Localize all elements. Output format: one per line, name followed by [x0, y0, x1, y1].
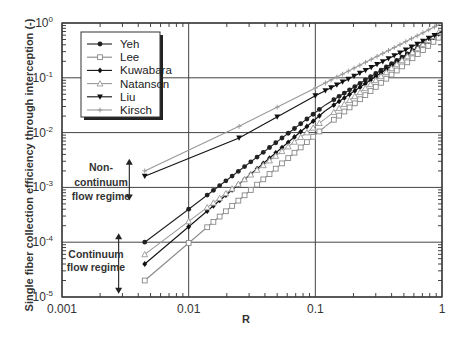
y-tick-label: 10-2 [33, 125, 54, 140]
marker-square [236, 198, 241, 203]
marker-cross [363, 60, 368, 65]
marker-square [292, 150, 297, 155]
marker-triangle-down [357, 71, 363, 76]
non-continuum-label: flow regime [72, 190, 131, 202]
marker-circle [337, 94, 342, 99]
marker-circle [280, 136, 285, 141]
x-tick-label: 1 [439, 302, 446, 316]
marker-square [142, 278, 147, 283]
legend-label: Yeh [120, 38, 139, 50]
y-tick-labels: 10010-110-210-310-410-5 [33, 15, 54, 304]
marker-square [186, 241, 191, 246]
marker-square [347, 105, 352, 110]
marker-cross [375, 54, 380, 59]
marker-cross [357, 63, 362, 68]
arrow-head-down [115, 288, 122, 294]
marker-cross [398, 42, 403, 47]
marker-square [400, 64, 405, 69]
marker-square [337, 113, 342, 118]
marker-cross [142, 169, 147, 174]
marker-circle [230, 174, 235, 179]
annotations: Non-continuumflow regimeContinuumflow re… [67, 159, 133, 294]
marker-circle [98, 42, 103, 47]
marker-circle [273, 140, 278, 145]
legend-label: Kirsch [120, 104, 152, 116]
marker-diamond [331, 102, 336, 108]
marker-cross [403, 39, 408, 44]
marker-square [242, 193, 247, 198]
marker-cross [237, 124, 242, 129]
series-line [145, 23, 442, 171]
marker-circle [286, 131, 291, 136]
marker-square [384, 76, 389, 81]
marker-circle [223, 178, 228, 183]
marker-circle [242, 164, 247, 169]
marker-cross [409, 36, 414, 41]
marker-square [405, 60, 410, 65]
marker-square [217, 214, 222, 219]
marker-square [426, 44, 431, 49]
marker-cross [386, 48, 391, 53]
marker-square [98, 55, 103, 60]
marker-cross [346, 69, 351, 74]
marker-triangle-down [340, 80, 346, 85]
marker-circle [311, 112, 316, 117]
marker-circle [292, 126, 297, 131]
marker-circle [142, 240, 147, 245]
marker-triangle-down [368, 65, 374, 70]
marker-cross [340, 72, 345, 77]
series-liu [142, 31, 442, 179]
marker-square [317, 129, 322, 134]
marker-triangle-down [363, 68, 369, 73]
marker-square [248, 188, 253, 193]
marker-square [280, 161, 285, 166]
marker-square [363, 93, 368, 98]
marker-cross [392, 45, 397, 50]
x-tick-label: 0.01 [177, 302, 201, 316]
marker-circle [331, 97, 336, 102]
marker-square [261, 177, 266, 182]
marker-cross [275, 105, 280, 110]
marker-diamond [337, 99, 342, 105]
marker-square [342, 109, 347, 114]
y-tick-label: 10-4 [33, 234, 54, 249]
marker-triangle-down [312, 93, 318, 98]
marker-circle [236, 169, 241, 174]
marker-square [415, 52, 420, 57]
marker-cross [313, 86, 318, 91]
marker-triangle-down [386, 56, 392, 61]
marker-square [305, 140, 310, 145]
marker-circle [298, 121, 303, 126]
marker-triangle-down [142, 174, 148, 179]
y-tick-label: 10-1 [33, 70, 54, 85]
marker-square [331, 117, 336, 122]
marker-circle [267, 145, 272, 150]
marker-square [379, 80, 384, 85]
marker-square [286, 156, 291, 161]
marker-triangle-down [334, 82, 340, 87]
legend-label: Kuwabara [120, 64, 172, 76]
marker-cross [415, 33, 420, 38]
marker-circle [342, 91, 347, 96]
marker-square [255, 182, 260, 187]
chart: 0.0010.010.11 10010-110-210-310-410-5 R … [0, 0, 467, 344]
marker-square [358, 97, 363, 102]
marker-square [211, 219, 216, 224]
marker-circle [217, 183, 222, 188]
marker-square [421, 48, 426, 53]
marker-square [273, 166, 278, 171]
y-tick-label: 10-3 [33, 179, 54, 194]
legend-label: Lee [120, 51, 139, 63]
marker-cross [369, 57, 374, 62]
x-tick-label: 0.1 [307, 302, 324, 316]
marker-square [410, 56, 415, 61]
marker-square [389, 72, 394, 77]
marker-cross [380, 51, 385, 56]
marker-circle [186, 207, 191, 212]
series-line [145, 105, 326, 242]
legend-label: Liu [120, 91, 135, 103]
marker-diamond [342, 95, 347, 101]
marker-circle [261, 150, 266, 155]
legend-label: Natanson [120, 78, 169, 90]
marker-triangle-down [345, 77, 351, 82]
